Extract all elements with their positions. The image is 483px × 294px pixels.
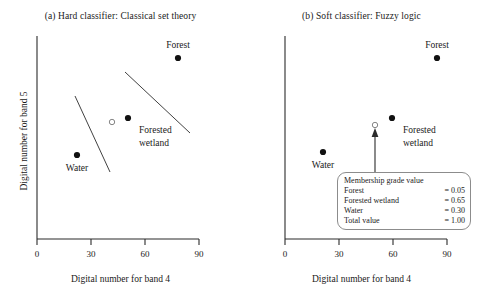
panel-a-label-forested-wetland-line2: wetland bbox=[139, 138, 169, 148]
panel-b-point-water bbox=[320, 149, 326, 155]
panel-a-label-forest: Forest bbox=[166, 40, 190, 50]
panel-a-label-water: Water bbox=[66, 163, 89, 173]
panel-a-point-forested-wetland bbox=[125, 115, 131, 121]
panel-b-ticklabel-0: 0 bbox=[283, 249, 288, 259]
panel-b-point-forest bbox=[434, 55, 440, 61]
callout-row-total: Total value = 1.00 bbox=[344, 216, 465, 226]
membership-grade-callout: Membership grade value Forest = 0.05 For… bbox=[337, 172, 471, 230]
panel-a-divider-forest bbox=[125, 72, 190, 133]
panel-a-ticklabel-30: 30 bbox=[87, 249, 97, 259]
panel-a-divider-water bbox=[75, 96, 110, 172]
panel-b-label-forest: Forest bbox=[425, 40, 449, 50]
panel-a-point-forest bbox=[175, 55, 181, 61]
panel-b-label-water: Water bbox=[312, 160, 335, 170]
panel-soft-classifier: (b) Soft classifier: Fuzzy logic 0 30 60… bbox=[241, 0, 482, 294]
panel-b-label-forested-wetland-line2: wetland bbox=[403, 138, 433, 148]
panel-b-ticklabel-30: 30 bbox=[335, 249, 345, 259]
callout-arrow-head-icon bbox=[372, 128, 379, 137]
panel-a-plot: 0 30 60 90 Forest Forested wetland Water bbox=[0, 0, 241, 294]
callout-value-forested-wetland: = 0.65 bbox=[444, 196, 465, 206]
callout-label-water: Water bbox=[344, 206, 369, 216]
callout-value-water: = 0.30 bbox=[444, 206, 465, 216]
panel-a-ylabel: Digital number for band 5 bbox=[19, 61, 29, 221]
panel-hard-classifier: (a) Hard classifier: Classical set theor… bbox=[0, 0, 241, 294]
callout-value-total: = 1.00 bbox=[444, 216, 465, 226]
callout-row-forest: Forest = 0.05 bbox=[344, 186, 465, 196]
panel-a-label-forested-wetland-line1: Forested bbox=[139, 125, 172, 135]
panel-b-xlabel: Digital number for band 4 bbox=[241, 274, 482, 284]
callout-label-forested-wetland: Forested wetland bbox=[344, 196, 405, 206]
figure-container: (a) Hard classifier: Classical set theor… bbox=[0, 0, 483, 294]
callout-row-water: Water = 0.30 bbox=[344, 206, 465, 216]
panel-b-point-forested-wetland bbox=[389, 115, 395, 121]
panel-b-point-mixed-pixel bbox=[372, 122, 377, 127]
callout-title: Membership grade value bbox=[344, 176, 465, 186]
callout-label-forest: Forest bbox=[344, 186, 370, 196]
panel-a-point-water bbox=[74, 152, 80, 158]
panel-b-ticklabel-60: 60 bbox=[389, 249, 399, 259]
callout-label-total: Total value bbox=[344, 216, 386, 226]
panel-a-point-mixed-pixel bbox=[109, 119, 114, 124]
panel-b-label-forested-wetland-line1: Forested bbox=[403, 125, 436, 135]
panel-b-ticklabel-90: 90 bbox=[443, 249, 453, 259]
callout-value-forest: = 0.05 bbox=[444, 186, 465, 196]
panel-a-ticklabel-90: 90 bbox=[195, 249, 205, 259]
panel-a-ticklabel-60: 60 bbox=[141, 249, 151, 259]
panel-a-xlabel: Digital number for band 4 bbox=[0, 274, 241, 284]
panel-a-ticklabel-0: 0 bbox=[35, 249, 40, 259]
panel-b-plot: 0 30 60 90 Forest Forested wetland Water bbox=[241, 0, 482, 294]
callout-row-forested-wetland: Forested wetland = 0.65 bbox=[344, 196, 465, 206]
